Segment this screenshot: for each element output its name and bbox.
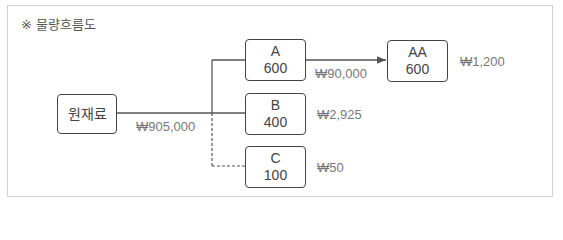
- c-value: ₩50: [317, 160, 344, 175]
- node-qty: 400: [264, 114, 287, 131]
- node-B: B 400: [245, 93, 306, 135]
- node-qty: 100: [264, 167, 287, 184]
- node-raw-material: 원재료: [57, 94, 117, 134]
- node-label: A: [271, 43, 280, 60]
- a-to-aa-value: ₩90,000: [315, 66, 367, 81]
- node-label: B: [271, 97, 280, 114]
- node-A: A 600: [245, 39, 306, 81]
- node-C: C 100: [245, 146, 306, 188]
- node-qty: 600: [264, 60, 287, 77]
- node-label: AA: [408, 44, 427, 61]
- node-AA: AA 600: [387, 40, 448, 82]
- node-qty: 600: [406, 61, 429, 78]
- aa-value: ₩1,200: [460, 54, 505, 69]
- node-label: 원재료: [68, 106, 107, 123]
- node-label: C: [270, 150, 280, 167]
- raw-cost-value: ₩905,000: [136, 119, 195, 134]
- b-value: ₩2,925: [317, 107, 362, 122]
